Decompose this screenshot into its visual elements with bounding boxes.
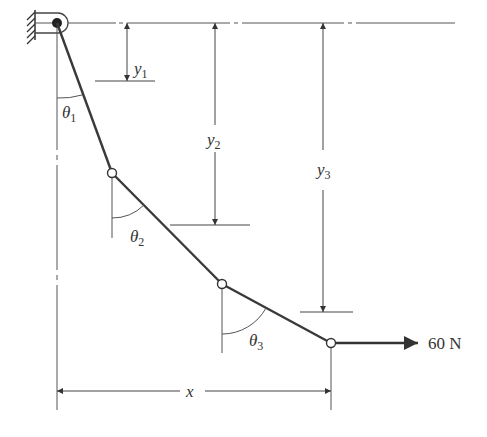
joint-1 — [108, 169, 117, 178]
wall-hatching — [27, 10, 35, 44]
theta1-arc — [57, 95, 82, 98]
segment-2 — [112, 173, 222, 284]
force-label: 60 N — [428, 334, 462, 353]
joint-verticals — [112, 178, 331, 410]
theta1-label: θ1 — [62, 103, 76, 125]
y3-label: y3 — [315, 160, 331, 182]
theta2-arc — [112, 205, 144, 218]
pin-support-icon — [35, 13, 68, 33]
theta3-label: θ3 — [249, 331, 263, 353]
theta2-label: θ2 — [130, 227, 144, 249]
joint-2 — [218, 280, 227, 289]
segment-3 — [222, 284, 331, 343]
y2-dimension — [170, 23, 250, 225]
angle-arcs — [57, 95, 266, 334]
end-joint — [327, 339, 336, 348]
cable-diagram: 60 N y1 y2 y3 θ1 θ2 θ3 x — [0, 0, 487, 437]
y2-label: y2 — [205, 130, 221, 152]
x-label: x — [185, 382, 194, 401]
y1-label: y1 — [132, 59, 148, 81]
theta3-arc — [222, 308, 266, 334]
cable — [57, 23, 331, 343]
